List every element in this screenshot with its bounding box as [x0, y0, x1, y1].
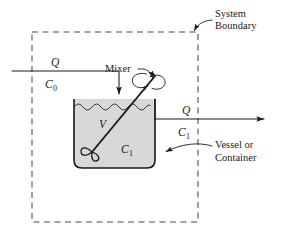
inlet-concentration-letter: C	[45, 78, 53, 90]
outlet-concentration-symbol: C 1	[178, 126, 190, 141]
outlet-concentration-letter: C	[178, 126, 186, 138]
tank-concentration-letter: C	[121, 143, 129, 155]
diagram-canvas: System Boundary Mixer Vessel or Containe…	[0, 0, 284, 236]
outlet-concentration-subscript: 1	[186, 132, 190, 141]
system-boundary-leader	[195, 20, 213, 31]
tank-concentration-subscript: 1	[129, 149, 133, 158]
system-boundary-label-line1: System	[215, 8, 246, 19]
inlet-pipe	[12, 71, 119, 94]
vessel-leader	[166, 144, 212, 152]
mixed-tank-diagram: System Boundary Mixer Vessel or Containe…	[0, 0, 284, 236]
vessel-label-line2: Container	[215, 152, 257, 163]
inlet-concentration-subscript: 0	[53, 84, 57, 93]
inlet-flow-symbol: Q	[51, 56, 60, 68]
system-boundary-label-line2: Boundary	[215, 20, 257, 31]
rotation-arrows-icon	[132, 73, 165, 89]
mixer-label: Mixer	[105, 63, 131, 74]
vessel-label-line1: Vessel or	[215, 139, 254, 150]
outlet-flow-symbol: Q	[182, 104, 191, 116]
inlet-concentration-symbol: C 0	[45, 78, 57, 93]
